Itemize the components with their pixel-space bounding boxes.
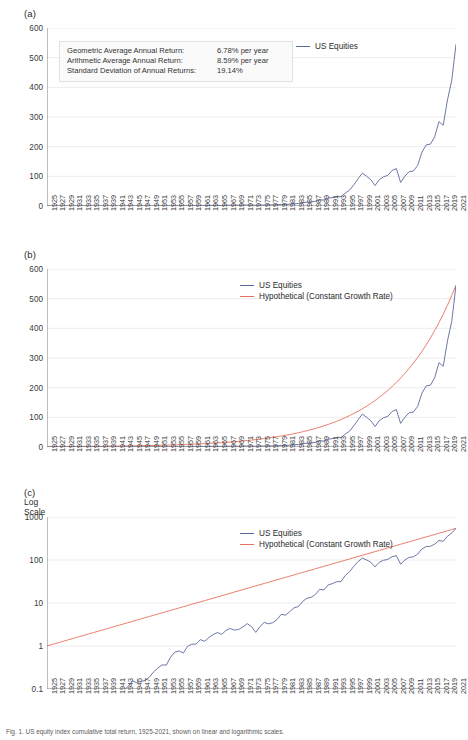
y-tick-label: 1000 <box>25 513 43 522</box>
legend-label-us-equities: US Equities <box>259 281 302 290</box>
y-tick-label: 100 <box>29 172 43 181</box>
x-tick-label: 2011 <box>416 679 425 694</box>
x-tick-label: 2019 <box>450 195 459 211</box>
x-tick-label: 1927 <box>58 678 67 694</box>
x-tick-label: 1993 <box>339 436 348 452</box>
legend-swatch-us-equities <box>296 46 310 47</box>
y-tick-label: 200 <box>29 383 43 392</box>
panel-c-legend: US Equities Hypothetical (Constant Growt… <box>240 528 393 550</box>
x-tick-label: 1951 <box>160 195 169 211</box>
stat-value-arithmetic: 8.59% per year <box>217 56 269 66</box>
x-tick-label: 1977 <box>271 436 280 452</box>
stat-label-geometric: Geometric Average Annual Return: <box>67 46 217 56</box>
y-tick-label: 0.1 <box>32 685 43 694</box>
x-tick-label: 1965 <box>220 195 229 211</box>
y-tick-label: 300 <box>29 354 43 363</box>
x-tick-label: 1951 <box>160 678 169 694</box>
x-tick-label: 1943 <box>126 195 135 211</box>
x-tick-label: 2011 <box>416 196 425 211</box>
x-tick-label: 1973 <box>254 436 263 452</box>
figure-caption: Fig. 1. US equity index cumulative total… <box>6 728 464 736</box>
panel-a-label: (a) <box>24 8 36 19</box>
x-tick-label: 1935 <box>92 436 101 452</box>
legend-item-us-equities: US Equities <box>296 41 358 52</box>
stat-value-stddev: 19.14% <box>217 66 243 76</box>
x-tick-label: 2011 <box>416 437 425 452</box>
y-tick-label: 400 <box>29 324 43 333</box>
legend-swatch-hypothetical <box>240 544 254 545</box>
y-tick-label: 1 <box>38 642 43 651</box>
statistics-box: Geometric Average Annual Return: 6.78% p… <box>59 41 293 82</box>
panel-c-yaxis: 0.11101001000 <box>0 517 43 689</box>
x-tick-label: 2015 <box>433 678 442 694</box>
stat-label-stddev: Standard Deviation of Annual Returns: <box>67 66 217 76</box>
panel-b-legend: US Equities Hypothetical (Constant Growt… <box>240 280 393 302</box>
x-tick-label: 1939 <box>109 436 118 452</box>
panel-b: (b) 0100200300400500600 US Equities Hypo… <box>0 243 468 486</box>
x-tick-label: 2021 <box>459 195 468 211</box>
x-tick-label: 1977 <box>271 678 280 694</box>
y-tick-label: 500 <box>29 53 43 62</box>
x-tick-label: 1969 <box>237 195 246 211</box>
panel-b-label: (b) <box>24 249 36 260</box>
y-tick-label: 500 <box>29 294 43 303</box>
y-tick-label: 600 <box>29 265 43 274</box>
panel-a-legend: US Equities <box>296 41 358 52</box>
x-tick-label: 2019 <box>450 678 459 694</box>
legend-label-hypothetical: Hypothetical (Constant Growth Rate) <box>259 540 393 549</box>
x-tick-label: 1989 <box>322 436 331 452</box>
x-tick-label: 1931 <box>75 678 84 694</box>
x-tick-label: 1935 <box>92 678 101 694</box>
panel-a-yaxis: 0100200300400500600 <box>0 28 43 206</box>
x-tick-label: 1973 <box>254 678 263 694</box>
x-tick-label: 1997 <box>356 436 365 452</box>
x-tick-label: 1939 <box>109 678 118 694</box>
x-tick-label: 1965 <box>220 678 229 694</box>
x-tick-label: 1985 <box>305 195 314 211</box>
x-tick-label: 1927 <box>58 195 67 211</box>
x-tick-label: 1993 <box>339 678 348 694</box>
x-tick-label: 2021 <box>459 678 468 694</box>
legend-item-us-equities: US Equities <box>240 528 393 539</box>
stat-value-geometric: 6.78% per year <box>217 46 269 56</box>
panel-b-yaxis: 0100200300400500600 <box>0 269 43 447</box>
figure-page: (a) 0100200300400500600 Geometric Averag… <box>0 0 468 740</box>
x-tick-label: 1981 <box>288 678 297 694</box>
x-tick-label: 1993 <box>339 195 348 211</box>
x-tick-label: 1965 <box>220 436 229 452</box>
stat-label-arithmetic: Arithmetic Average Annual Return: <box>67 56 217 66</box>
x-tick-label: 1931 <box>75 195 84 211</box>
legend-item-hypothetical: Hypothetical (Constant Growth Rate) <box>240 539 393 550</box>
x-tick-label: 2015 <box>433 195 442 211</box>
x-tick-label: 1947 <box>143 678 152 694</box>
legend-label-us-equities: US Equities <box>315 42 358 51</box>
stat-row: Arithmetic Average Annual Return: 8.59% … <box>67 56 285 66</box>
x-tick-label: 1985 <box>305 678 314 694</box>
x-tick-label: 1985 <box>305 436 314 452</box>
x-tick-label: 1939 <box>109 195 118 211</box>
x-tick-label: 1997 <box>356 195 365 211</box>
y-tick-label: 100 <box>29 413 43 422</box>
legend-label-hypothetical: Hypothetical (Constant Growth Rate) <box>259 292 393 301</box>
x-tick-label: 2015 <box>433 436 442 452</box>
x-tick-label: 1927 <box>58 436 67 452</box>
x-tick-label: 2019 <box>450 436 459 452</box>
x-tick-label: 1989 <box>322 195 331 211</box>
x-tick-label: 1935 <box>92 195 101 211</box>
x-tick-label: 1947 <box>143 436 152 452</box>
x-tick-label: 1931 <box>75 436 84 452</box>
x-tick-label: 2021 <box>459 436 468 452</box>
y-tick-label: 10 <box>34 599 43 608</box>
y-tick-label: 0 <box>38 202 43 211</box>
legend-swatch-us-equities <box>240 285 254 286</box>
y-tick-label: 0 <box>38 443 43 452</box>
x-tick-label: 1989 <box>322 678 331 694</box>
x-tick-label: 1951 <box>160 436 169 452</box>
x-tick-label: 1969 <box>237 436 246 452</box>
y-tick-label: 600 <box>29 24 43 33</box>
y-tick-label: 400 <box>29 83 43 92</box>
x-tick-label: 1997 <box>356 678 365 694</box>
x-tick-label: 1969 <box>237 678 246 694</box>
x-tick-label: 1973 <box>254 195 263 211</box>
x-tick-label: 1981 <box>288 195 297 211</box>
